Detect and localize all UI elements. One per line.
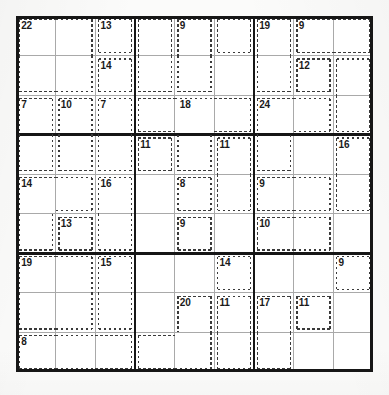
grid-cell[interactable] [333,135,373,175]
grid-cell[interactable] [175,293,215,333]
grid-cell[interactable] [254,95,294,135]
grid-cell[interactable] [214,95,254,135]
grid-cell[interactable] [16,293,56,333]
grid-cell[interactable] [214,135,254,175]
grid-cell[interactable] [294,95,334,135]
grid-cell[interactable] [254,56,294,96]
grid-cell[interactable] [135,253,175,293]
grid-cell[interactable] [16,174,56,214]
grid-cell[interactable] [95,174,135,214]
grid-cell[interactable] [56,293,96,333]
grid-cell[interactable] [56,332,96,372]
grid-cell[interactable] [294,135,334,175]
grid-cell[interactable] [135,293,175,333]
grid-cell[interactable] [294,293,334,333]
grid-cell[interactable] [333,293,373,333]
grid-cell[interactable] [175,332,215,372]
grid-cell[interactable] [16,332,56,372]
grid-cell[interactable] [175,16,215,56]
grid-cell[interactable] [254,293,294,333]
grid-cell[interactable] [214,16,254,56]
grid-cell[interactable] [95,214,135,254]
grid-cell[interactable] [333,253,373,293]
grid-cell[interactable] [16,56,56,96]
killer-sudoku-page: 2213919914127107182411111614168913910191… [0,0,389,395]
grid-cell[interactable] [56,135,96,175]
grid-cell[interactable] [175,253,215,293]
grid-cell[interactable] [254,135,294,175]
grid-cell[interactable] [175,56,215,96]
grid-cell[interactable] [214,56,254,96]
grid-cell[interactable] [95,332,135,372]
grid-cell[interactable] [214,214,254,254]
grid-cell[interactable] [135,16,175,56]
grid-cell[interactable] [95,56,135,96]
grid-cell[interactable] [333,95,373,135]
grid-cell[interactable] [254,16,294,56]
grid-cell[interactable] [16,95,56,135]
grid-cell[interactable] [95,293,135,333]
grid-cell[interactable] [333,16,373,56]
grid-cell[interactable] [135,95,175,135]
grid-cell[interactable] [294,56,334,96]
grid-cell[interactable] [56,95,96,135]
grid-cell[interactable] [294,253,334,293]
grid-cell[interactable] [95,95,135,135]
grid-cell[interactable] [333,56,373,96]
grid-cell[interactable] [254,214,294,254]
grid-cell[interactable] [135,332,175,372]
grid-cell[interactable] [95,135,135,175]
grid-cell[interactable] [254,332,294,372]
grid-cell[interactable] [56,253,96,293]
grid-cell[interactable] [95,16,135,56]
grid-cell[interactable] [214,174,254,214]
grid-cell[interactable] [135,174,175,214]
grid-cell[interactable] [56,16,96,56]
sudoku-grid[interactable]: 2213919914127107182411111614168913910191… [16,16,373,372]
grid-cell[interactable] [135,135,175,175]
grid-cell[interactable] [175,214,215,254]
grid-cell[interactable] [95,253,135,293]
grid-cell[interactable] [294,16,334,56]
grid-cell[interactable] [16,16,56,56]
grid-cell[interactable] [214,253,254,293]
grid-cell[interactable] [333,174,373,214]
grid-cell[interactable] [254,253,294,293]
grid-cell[interactable] [175,135,215,175]
grid-cell[interactable] [333,332,373,372]
grid-cell[interactable] [135,56,175,96]
grid-cell[interactable] [56,56,96,96]
grid-cell[interactable] [175,174,215,214]
grid-cell[interactable] [214,332,254,372]
grid-cell[interactable] [294,332,334,372]
grid-cell[interactable] [175,95,215,135]
grid-cell[interactable] [16,135,56,175]
grid-cell[interactable] [56,174,96,214]
grid-cell[interactable] [294,214,334,254]
grid-cell[interactable] [16,253,56,293]
grid-cell[interactable] [16,214,56,254]
grid-cell[interactable] [254,174,294,214]
grid-cell[interactable] [214,293,254,333]
grid-cell[interactable] [294,174,334,214]
grid-cell[interactable] [333,214,373,254]
grid-cell[interactable] [56,214,96,254]
grid-cell[interactable] [135,214,175,254]
